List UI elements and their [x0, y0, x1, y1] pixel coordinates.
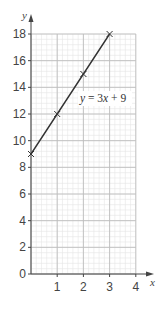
tick-labels: 0246810121416181234	[13, 27, 140, 294]
svg-text:18: 18	[13, 27, 27, 41]
svg-text:2: 2	[80, 280, 87, 294]
svg-text:4: 4	[132, 280, 139, 294]
svg-text:2: 2	[19, 240, 26, 254]
equation-label: y = 3x + 9	[79, 92, 126, 105]
line-chart: 0246810121416181234 y = 3x + 9 y x	[0, 0, 162, 309]
svg-text:4: 4	[19, 214, 26, 228]
y-axis-label: y	[21, 9, 27, 21]
svg-text:6: 6	[19, 187, 26, 201]
svg-text:10: 10	[13, 134, 27, 148]
svg-text:0: 0	[19, 267, 26, 281]
axes	[29, 14, 155, 277]
svg-text:8: 8	[19, 160, 26, 174]
svg-text:3: 3	[106, 280, 113, 294]
svg-text:1: 1	[54, 280, 61, 294]
svg-text:16: 16	[13, 54, 27, 68]
svg-text:14: 14	[13, 80, 27, 94]
svg-text:12: 12	[13, 107, 27, 121]
x-axis-label: x	[149, 276, 155, 288]
